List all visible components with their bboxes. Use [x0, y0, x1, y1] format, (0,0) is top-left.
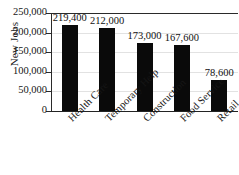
y-axis-tick-label: 0	[0, 104, 47, 115]
y-axis-tick-label: 50,000	[0, 84, 47, 95]
y-axis-tick-label: 200,000	[0, 26, 47, 37]
bar-chart: New Jobs 050,000100,000150,000200,000250…	[0, 0, 239, 175]
bar[interactable]	[62, 25, 78, 111]
y-axis-tick-label: 150,000	[0, 45, 47, 56]
bar-value-label: 78,600	[189, 67, 239, 78]
bar[interactable]	[99, 28, 115, 111]
y-axis-tick-label: 100,000	[0, 65, 47, 76]
bar-value-label: 167,600	[152, 32, 212, 43]
bar-value-label: 212,000	[77, 15, 137, 26]
